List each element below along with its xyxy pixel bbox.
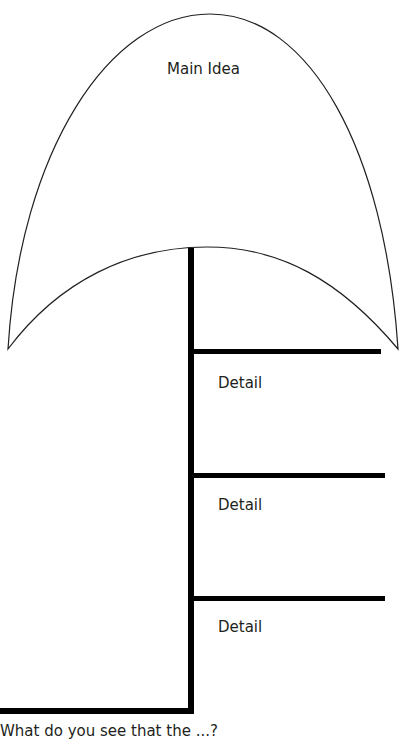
detail-label-2: Detail	[218, 496, 262, 514]
detail-line-2	[191, 473, 385, 478]
detail-line-3	[191, 596, 385, 601]
footer-question: What do you see that the ...?	[0, 722, 218, 740]
detail-line-1	[191, 349, 381, 354]
detail-label-3: Detail	[218, 618, 262, 636]
bottom-bar	[0, 708, 194, 714]
detail-label-1: Detail	[218, 374, 262, 392]
main-idea-label: Main Idea	[167, 60, 240, 78]
spine-bar	[188, 248, 194, 714]
